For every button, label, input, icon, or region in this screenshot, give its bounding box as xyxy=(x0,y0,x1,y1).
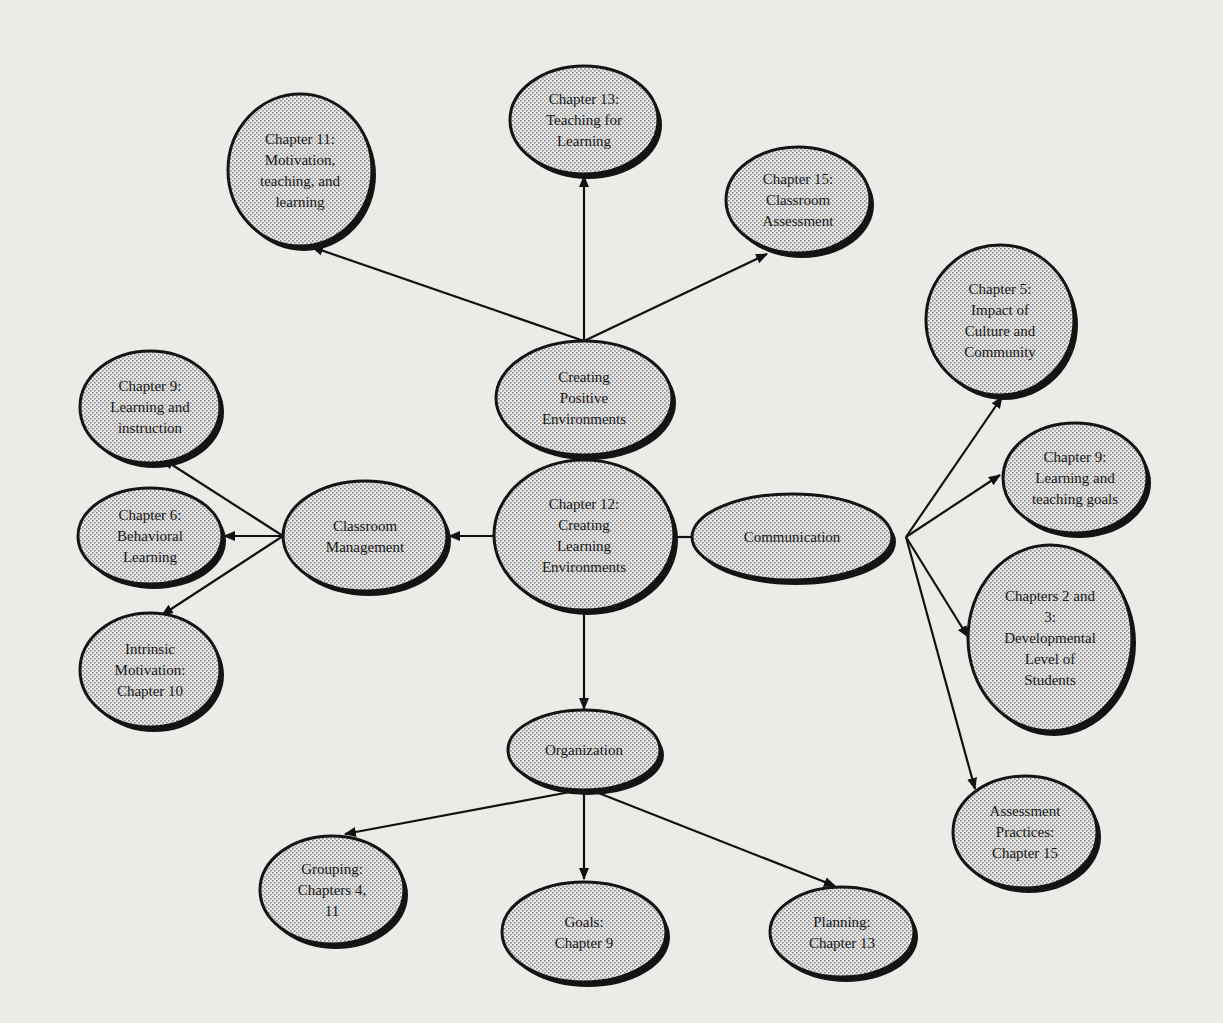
edge-cpe-to-ch15 xyxy=(584,254,767,341)
node-label: Chapter 10 xyxy=(117,683,183,699)
node-label: 11 xyxy=(325,903,339,919)
node-label: teaching goals xyxy=(1032,491,1118,507)
node-cpe: CreatingPositiveEnvironments xyxy=(496,341,676,460)
node-label: Intrinsic xyxy=(125,641,175,657)
node-label: Chapter 9: xyxy=(119,378,182,394)
node-label: Impact of xyxy=(971,302,1029,318)
node-label: Culture and xyxy=(965,323,1036,339)
node-label: Students xyxy=(1024,672,1076,688)
node-label: Learning and xyxy=(110,399,190,415)
node-label: Behavioral xyxy=(117,528,183,544)
node-label: Chapter 9 xyxy=(555,935,614,951)
node-ch23: Chapters 2 and3:DevelopmentalLevel ofStu… xyxy=(968,545,1136,736)
node-label: Chapter 11: xyxy=(265,131,335,147)
node-label: Planning: xyxy=(813,914,871,930)
node-org: Organization xyxy=(508,710,664,795)
node-label: Teaching for xyxy=(546,112,622,128)
node-ellipse xyxy=(283,481,447,591)
node-comm: Communication xyxy=(692,494,896,585)
node-ch11: Chapter 11:Motivation,teaching, andlearn… xyxy=(228,94,376,251)
node-goals: Goals:Chapter 9 xyxy=(502,882,670,987)
node-label: Chapters 2 and xyxy=(1005,588,1095,604)
node-label: Level of xyxy=(1025,651,1075,667)
node-ellipse xyxy=(770,887,914,977)
node-ch12: Chapter 12:CreatingLearningEnvironments xyxy=(494,460,678,615)
node-label: Creating xyxy=(558,369,610,385)
edge-comm-to-ch5 xyxy=(906,397,1002,537)
node-cm: ClassroomManagement xyxy=(283,481,451,596)
node-label: Organization xyxy=(545,742,624,758)
node-label: Classroom xyxy=(333,518,398,534)
concept-map-diagram: Chapter 12:CreatingLearningEnvironmentsC… xyxy=(0,0,1223,1023)
node-label: Chapter 12: xyxy=(549,496,619,512)
node-ellipse xyxy=(228,94,372,246)
node-label: Motivation: xyxy=(115,662,186,678)
edge-comm-to-assess xyxy=(906,537,975,789)
edge-org-to-planning xyxy=(596,792,835,886)
node-label: Motivation, xyxy=(265,152,335,168)
node-label: Environments xyxy=(542,559,626,575)
node-label: Learning xyxy=(123,549,178,565)
node-label: Developmental xyxy=(1004,630,1096,646)
node-label: Grouping: xyxy=(301,861,363,877)
edge-cpe-to-ch11 xyxy=(312,247,584,341)
node-ch13: Chapter 13:Teaching forLearning xyxy=(510,66,662,179)
concept-map-page: Chapter 12:CreatingLearningEnvironmentsC… xyxy=(0,0,1223,1023)
node-ch15: Chapter 15:ClassroomAssessment xyxy=(726,147,874,258)
node-label: Chapter 5: xyxy=(969,281,1032,297)
node-im: IntrinsicMotivation:Chapter 10 xyxy=(80,613,224,732)
node-label: Chapter 13 xyxy=(809,935,875,951)
nodes-layer: Chapter 12:CreatingLearningEnvironmentsC… xyxy=(78,66,1151,987)
node-label: Learning and xyxy=(1035,470,1115,486)
node-label: Environments xyxy=(542,411,626,427)
edge-comm-to-ch23 xyxy=(906,537,968,637)
node-label: Learning xyxy=(557,538,612,554)
node-label: learning xyxy=(275,194,325,210)
node-ellipse xyxy=(926,245,1074,395)
node-label: Creating xyxy=(558,517,610,533)
node-ch5: Chapter 5:Impact ofCulture andCommunity xyxy=(926,245,1078,400)
node-label: Management xyxy=(326,539,405,555)
node-label: Communication xyxy=(744,529,841,545)
node-label: Chapter 6: xyxy=(119,507,182,523)
node-label: Chapter 15: xyxy=(763,171,833,187)
node-label: Practices: xyxy=(996,824,1054,840)
node-label: Goals: xyxy=(564,914,603,930)
node-label: Classroom xyxy=(766,192,831,208)
node-ch6: Chapter 6:BehavioralLearning xyxy=(78,488,226,589)
node-ch9li: Chapter 9:Learning andinstruction xyxy=(80,351,224,468)
node-label: Chapter 9: xyxy=(1044,449,1107,465)
node-ellipse xyxy=(494,460,674,610)
node-ch9tg: Chapter 9:Learning andteaching goals xyxy=(1003,423,1151,538)
node-label: Community xyxy=(964,344,1036,360)
node-label: 3: xyxy=(1044,609,1056,625)
node-label: Chapter 13: xyxy=(549,91,619,107)
node-label: Assessment xyxy=(763,213,835,229)
node-label: Chapter 15 xyxy=(992,845,1058,861)
node-label: teaching, and xyxy=(260,173,340,189)
edge-org-to-grouping xyxy=(345,792,570,834)
edge-comm-to-ch9tg xyxy=(906,475,1000,537)
node-label: instruction xyxy=(118,420,183,436)
node-label: Learning xyxy=(557,133,612,149)
node-label: Assessment xyxy=(990,803,1062,819)
node-planning: Planning:Chapter 13 xyxy=(770,887,918,982)
node-ellipse xyxy=(502,882,666,982)
node-label: Chapters 4, xyxy=(298,882,366,898)
node-label: Positive xyxy=(560,390,609,406)
node-grouping: Grouping:Chapters 4,11 xyxy=(260,836,408,949)
node-assess: AssessmentPractices:Chapter 15 xyxy=(953,776,1101,893)
